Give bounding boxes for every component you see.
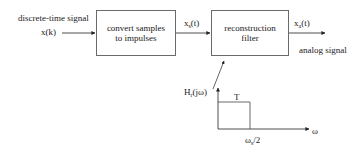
cutoff-label: ωs/2 (245, 135, 260, 148)
lowpass-response (218, 102, 250, 129)
amplitude-label: T (234, 92, 240, 102)
intermediate-signal-label: xs(t) (184, 18, 199, 31)
block1-line2: to impulses (115, 33, 156, 43)
x-axis-label: ω (312, 126, 318, 136)
filter-response-y-label: Hr(jω) (184, 87, 207, 100)
output-caption: analog signal (299, 45, 347, 55)
convert-samples-block: convert samples to impulses (96, 10, 176, 56)
output-signal-label: xa(t) (294, 18, 310, 31)
block1-line1: convert samples (107, 23, 165, 33)
input-caption: discrete-time signal (18, 13, 89, 23)
block2-line1: reconstruction (224, 23, 275, 33)
reconstruction-filter-block: reconstruction filter (211, 10, 289, 56)
block2-line2: filter (241, 33, 259, 43)
input-signal-label: x(k) (41, 27, 56, 37)
response-pointer-arrow (213, 61, 224, 89)
